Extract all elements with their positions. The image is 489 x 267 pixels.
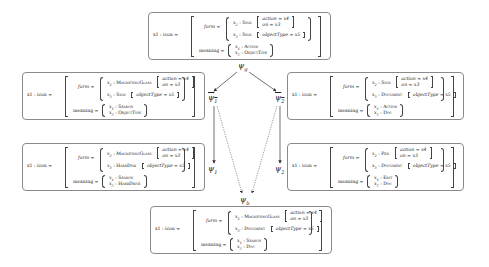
edge-psi-1-bar-to-psi-b (217, 106, 242, 193)
edge-psi-g-to-psi-2-bar (249, 72, 276, 91)
edge-psi-g-to-psi-1-bar (214, 72, 237, 91)
edges-layer (0, 0, 489, 267)
edge-psi-2-bar-to-psi-b (252, 106, 277, 193)
